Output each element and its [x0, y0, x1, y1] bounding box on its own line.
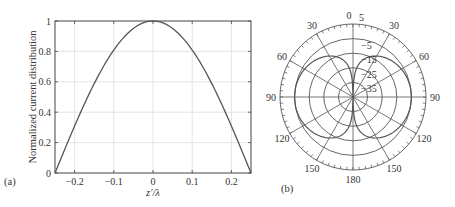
angle-label: 0	[347, 10, 352, 21]
angle-label: 90	[266, 92, 276, 103]
y-axis-label: Normalized current distribution	[27, 30, 38, 164]
polar-spoke	[353, 97, 416, 134]
angle-label: 60	[277, 51, 287, 62]
x-tick-label: 0.2	[225, 176, 238, 187]
x-tick-label: −0.2	[66, 176, 84, 187]
x-tick-label: 0.1	[186, 176, 199, 187]
axis-ticks: −0.2−0.100.10.200.20.40.60.81	[39, 16, 252, 188]
y-tick-label: 0	[46, 168, 51, 179]
angle-label: 30	[307, 20, 317, 31]
radial-label: −15	[361, 54, 377, 65]
x-tick-label: 0	[151, 176, 156, 187]
radial-label: 5	[359, 12, 364, 23]
x-tick-label: −0.1	[105, 176, 123, 187]
figure: −0.2−0.100.10.200.20.40.60.81 Normalized…	[0, 0, 455, 207]
angle-label: 150	[305, 163, 320, 174]
y-tick-label: 1	[46, 16, 51, 27]
y-tick-label: 0.8	[39, 46, 52, 57]
line-chart-panel: −0.2−0.100.10.200.20.40.60.81 Normalized…	[4, 16, 251, 199]
angle-label: 120	[417, 133, 432, 144]
radial-label: −5	[361, 40, 372, 51]
angle-label: 60	[419, 51, 429, 62]
angle-label: 150	[387, 163, 402, 174]
panel-label-b: (b)	[281, 183, 294, 195]
y-tick-label: 0.6	[39, 76, 52, 87]
angle-label: 90	[430, 92, 440, 103]
x-axis-label: z′/λ	[145, 187, 160, 198]
grid-lines	[55, 21, 251, 173]
polar-spoke	[290, 61, 353, 98]
panel-label-a: (a)	[4, 176, 16, 188]
angle-label: 30	[389, 20, 399, 31]
radial-label: −35	[361, 83, 377, 94]
polar-chart-panel: 03060901201501801501209060305−5−15−25−35…	[266, 10, 440, 196]
y-tick-label: 0.2	[39, 137, 52, 148]
angle-label: 120	[274, 133, 289, 144]
radial-label: −25	[361, 69, 377, 80]
polar-spoke	[290, 97, 353, 134]
angle-label: 180	[346, 174, 361, 185]
y-tick-label: 0.4	[39, 107, 52, 118]
